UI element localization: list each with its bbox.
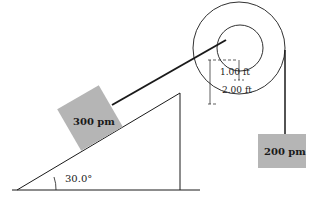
hanging-block-label: 200 pm — [264, 146, 306, 157]
outer-radius-label: 2.00 ft — [222, 85, 252, 95]
inner-radius-label: 1.00 ft — [220, 67, 250, 77]
rope-incline — [112, 40, 226, 105]
pulley-incline-diagram: 30.0° 300 pm 1.00 ft 2.00 ft 200 pm — [0, 0, 318, 198]
incline-block-label: 300 pm — [73, 116, 115, 127]
pulley-inner-circle — [217, 25, 263, 71]
angle-label: 30.0° — [65, 173, 92, 184]
angle-arc — [54, 177, 56, 190]
